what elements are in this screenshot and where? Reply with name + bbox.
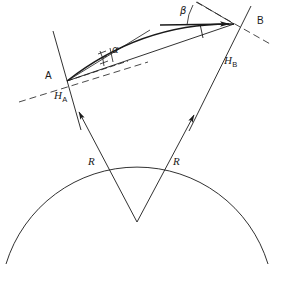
alpha-upper-ray <box>67 30 150 81</box>
label-radius-right: R <box>173 156 180 167</box>
label-height-b: HB <box>224 55 237 66</box>
label-height-a: HA <box>54 90 67 101</box>
beta-angle-arc <box>187 5 193 25</box>
earth-surface-arc <box>6 167 268 264</box>
figure-canvas <box>0 0 282 285</box>
height-a-subscript: A <box>62 95 67 104</box>
geodesy-figure: A B HA HB R R α β <box>0 0 282 285</box>
label-point-b: B <box>257 16 264 26</box>
label-angle-alpha: α <box>112 45 119 55</box>
height-b-subscript: B <box>232 60 237 69</box>
alpha-tick-1 <box>98 51 106 54</box>
height-a-symbol: H <box>54 89 62 101</box>
radius-line-b <box>137 115 194 222</box>
rhumb-line-path <box>67 24 234 81</box>
height-b-symbol: H <box>224 54 232 66</box>
beta-reference-line <box>160 24 234 25</box>
label-radius-left: R <box>88 156 95 167</box>
label-angle-beta: β <box>180 6 186 16</box>
horizon-dashed-a <box>19 62 148 102</box>
label-point-a: A <box>45 71 52 81</box>
beta-upper-ray <box>197 2 234 24</box>
